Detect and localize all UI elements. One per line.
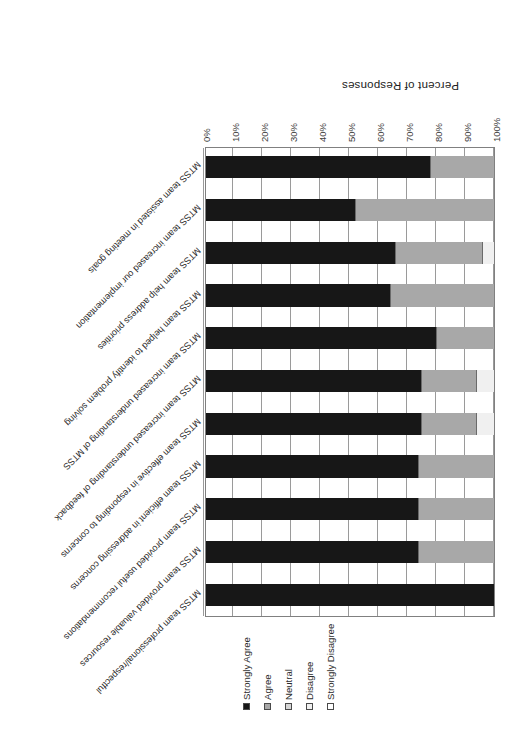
bar-segment-a: [436, 327, 494, 349]
bar-segment-sa: [206, 541, 418, 563]
legend-swatch-icon: [327, 703, 334, 710]
bar-segment-sa: [206, 284, 390, 306]
legend-item: Strongly Disagree: [325, 624, 336, 710]
bar-row: [206, 242, 494, 264]
bar-segment-a: [390, 284, 494, 306]
category-label: MTSS team increased understanding of fee…: [53, 373, 203, 523]
legend-swatch-icon: [243, 703, 250, 710]
x-tick-label: 90%: [462, 102, 473, 142]
chart-legend: Strongly DisagreeDisagreeNeutralAgreeStr…: [215, 600, 325, 710]
bar-row: [206, 498, 494, 520]
legend-item: Disagree: [304, 662, 315, 710]
x-tick-label: 60%: [375, 102, 386, 142]
x-tick-label: 10%: [230, 102, 241, 142]
x-tick-label: 100%: [491, 102, 502, 142]
legend-item: Strongly Agree: [241, 637, 252, 710]
legend-item: Agree: [262, 674, 273, 710]
x-tick-label: 0%: [201, 102, 212, 142]
bar-row: [206, 541, 494, 563]
bar-segment-a: [421, 370, 476, 392]
bar-segment-sa: [206, 242, 395, 264]
legend-label: Strongly Disagree: [325, 624, 336, 700]
x-tick-label: 30%: [288, 102, 299, 142]
bar-row: [206, 413, 494, 435]
bar-segment-sa: [206, 370, 421, 392]
bar-segment-sa: [206, 455, 418, 477]
legend-label: Agree: [262, 674, 273, 700]
bar-row: [206, 370, 494, 392]
bar-row: [206, 156, 494, 178]
bar-row: [206, 199, 494, 221]
bar-row: [206, 327, 494, 349]
legend-swatch-icon: [285, 703, 292, 710]
legend-swatch-icon: [306, 703, 313, 710]
bar-segment-sa: [206, 413, 421, 435]
x-tick-label: 50%: [346, 102, 357, 142]
bar-segment-sa: [206, 498, 418, 520]
bar-segment-d: [482, 242, 494, 264]
bar-segment-a: [421, 413, 476, 435]
x-tick-label: 80%: [433, 102, 444, 142]
chart-figure: 100%90%80%70%60%50%40%30%20%10%0% Percen…: [0, 0, 523, 732]
legend-label: Disagree: [304, 662, 315, 700]
legend-swatch-icon: [264, 703, 271, 710]
bar-row: [206, 284, 494, 306]
x-axis-title: Percent of Responses: [342, 80, 459, 92]
x-tick-label: 20%: [259, 102, 270, 142]
legend-label: Strongly Agree: [241, 637, 252, 700]
bar-segment-sa: [206, 199, 355, 221]
bar-segment-sa: [206, 156, 430, 178]
bar-segment-a: [395, 242, 482, 264]
bar-row: [206, 455, 494, 477]
x-tick-label: 40%: [317, 102, 328, 142]
legend-label: Neutral: [283, 669, 294, 700]
bar-segment-a: [418, 498, 494, 520]
bar-segment-d: [476, 413, 494, 435]
bar-segment-a: [430, 156, 494, 178]
gridline: [203, 148, 204, 616]
legend-item: Neutral: [283, 669, 294, 710]
bar-segment-a: [418, 541, 494, 563]
plot-area: [205, 147, 495, 617]
x-tick-label: 70%: [404, 102, 415, 142]
bar-segment-sa: [206, 327, 436, 349]
bar-segment-d: [476, 370, 494, 392]
bar-segment-a: [418, 455, 494, 477]
bar-segment-a: [355, 199, 494, 221]
